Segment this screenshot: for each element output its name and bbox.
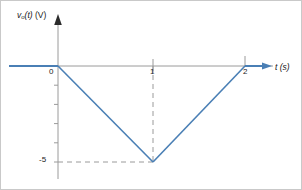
x-tick-label-2: 2	[243, 68, 247, 76]
y-axis-label-arg: (t)	[25, 10, 33, 20]
y-axis-label-unit: (V)	[35, 10, 46, 20]
signal-segment-down-ramp	[58, 66, 153, 162]
x-tick-label-0: 0	[49, 68, 53, 76]
y-axis-ticks	[54, 85, 58, 162]
plot-canvas	[1, 1, 302, 190]
y-axis-arrow-icon	[54, 14, 62, 25]
signal-segment-up-ramp	[153, 66, 245, 162]
x-axis-label-unit: (s)	[280, 62, 290, 72]
x-axis-label: t (s)	[275, 63, 290, 72]
waveform-figure: vo(t) (V) t (s) 0 1 2 -5	[0, 0, 302, 190]
y-tick-label-minus5: -5	[39, 156, 46, 164]
y-axis-label: vo(t) (V)	[17, 11, 46, 20]
x-tick-label-1: 1	[150, 68, 154, 76]
x-axis-arrow-icon	[262, 62, 272, 69]
x-axis-ticks	[153, 56, 245, 73]
